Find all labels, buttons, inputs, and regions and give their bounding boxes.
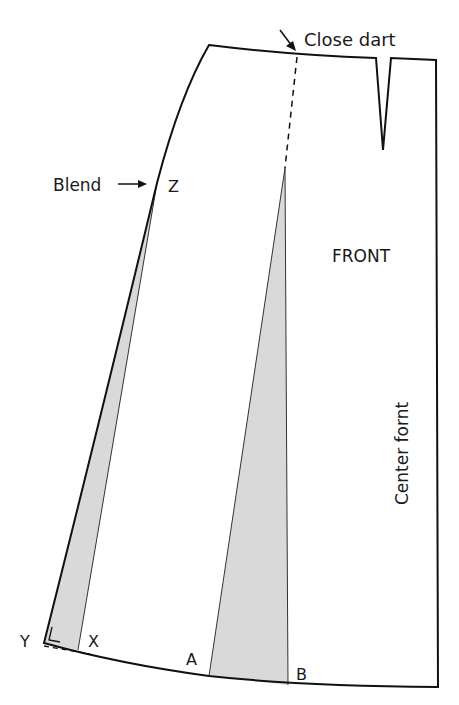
center-wedge-shading: [209, 168, 288, 685]
side-wedge-line-x: [78, 183, 157, 650]
point-x-label: X: [88, 632, 99, 651]
front-piece-label: FRONT: [332, 246, 391, 266]
point-y-label: Y: [19, 632, 30, 651]
skirt-pattern-diagram: Close dart Blend Z Y X A B FRONT Center …: [0, 0, 459, 705]
blend-label: Blend: [53, 175, 101, 195]
point-b-label: B: [296, 665, 307, 684]
point-z-label: Z: [168, 177, 179, 196]
point-a-label: A: [186, 650, 197, 669]
slash-line-dashed: [285, 57, 297, 168]
close-dart-arrow-icon: [280, 30, 296, 51]
blend-arrow-icon: [118, 180, 147, 188]
center-front-label: Center fornt: [392, 402, 412, 505]
close-dart-label: Close dart: [304, 29, 396, 50]
